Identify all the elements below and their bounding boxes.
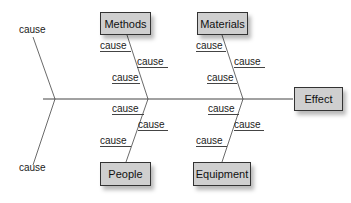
- tail-top-line: [33, 37, 55, 99]
- materials-box: Materials: [197, 12, 248, 35]
- equipment-box: Equipment: [193, 162, 251, 186]
- materials-cause-3: cause: [207, 72, 237, 84]
- equipment-cause-2: cause: [234, 119, 264, 131]
- methods-cause-2: cause: [137, 56, 168, 68]
- materials-label: Materials: [200, 18, 245, 30]
- methods-cause-1: cause: [100, 40, 131, 52]
- people-label: People: [108, 168, 142, 180]
- equipment-cause-1: cause: [208, 103, 239, 115]
- materials-cause-1: cause: [196, 40, 226, 52]
- cause-label-top-left: cause: [19, 24, 46, 35]
- effect-box: Effect: [294, 87, 343, 111]
- methods-box: Methods: [100, 12, 151, 35]
- cause-label-bottom-left: cause: [19, 162, 46, 173]
- tail-bottom-line: [33, 99, 55, 165]
- methods-cause-3: cause: [112, 72, 140, 84]
- materials-cause-2: cause: [234, 56, 265, 68]
- equipment-label: Equipment: [196, 168, 249, 180]
- people-cause-1: cause: [112, 103, 144, 115]
- people-cause-3: cause: [100, 135, 131, 147]
- effect-label: Effect: [305, 93, 333, 105]
- people-box: People: [100, 162, 151, 186]
- people-cause-2: cause: [138, 119, 168, 131]
- equipment-cause-3: cause: [196, 135, 227, 147]
- methods-label: Methods: [104, 18, 146, 30]
